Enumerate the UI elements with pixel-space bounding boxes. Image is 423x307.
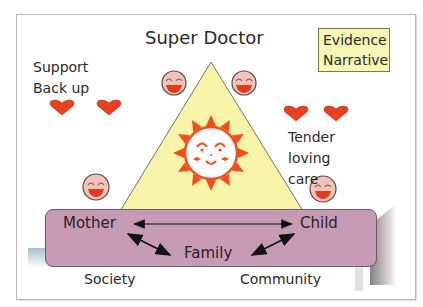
back-up-label: Back up: [33, 78, 89, 99]
support-note: Support Back up: [33, 57, 89, 99]
society-label: Society: [84, 272, 135, 287]
arrow-child-family: [252, 234, 294, 255]
narrative-label: Narrative: [323, 50, 389, 70]
node-child: Child: [300, 215, 338, 232]
evidence-label: Evidence: [323, 30, 389, 50]
node-family: Family: [184, 245, 232, 262]
diagram-title: Super Doctor: [145, 28, 264, 48]
evidence-narrative-legend: Evidence Narrative: [318, 28, 390, 72]
support-label: Support: [33, 57, 89, 78]
care-label: care: [288, 169, 378, 190]
tender-loving-label: Tender loving: [288, 127, 378, 169]
node-mother: Mother: [63, 215, 116, 232]
arrow-mother-family: [128, 234, 170, 255]
tender-care-note: Tender loving care: [288, 127, 378, 190]
community-label: Community: [240, 272, 321, 287]
